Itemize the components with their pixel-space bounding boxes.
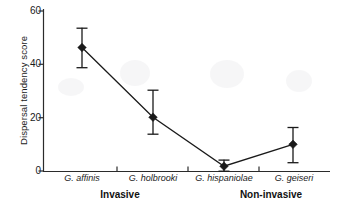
x-tick-label-g-hispaniolae: G. hispaniolae: [189, 174, 259, 183]
group-label-invasive: Invasive: [75, 190, 165, 200]
x-tick-label-g-geiseri: G. geiseri: [260, 174, 328, 183]
figure-dispersal-tendency: Dispersal tendency score 60 40 20 0: [0, 0, 339, 216]
series-line: [82, 48, 293, 167]
group-label-non-invasive: Non-invasive: [218, 190, 324, 200]
x-tick-label-g-affinis: G. affinis: [49, 174, 115, 183]
x-tick-label-g-holbrooki: G. holbrooki: [118, 174, 188, 183]
error-bar-g-holbrooki: [148, 90, 159, 134]
data-point-g-geiseri: [289, 140, 298, 149]
data-point-g-hispaniolae: [220, 162, 229, 171]
plot-canvas: [0, 0, 339, 216]
axis-lines: [44, 9, 331, 172]
